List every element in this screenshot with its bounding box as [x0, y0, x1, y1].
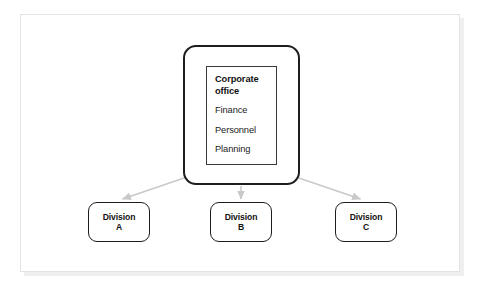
connector-corporate-to-division-a [123, 176, 191, 199]
corporate-office-title-line-1: Corporate [215, 74, 276, 86]
division-b-label-line-2: B [238, 222, 244, 232]
division-c-node: Division C [335, 202, 397, 242]
division-c-label-line-1: Division [350, 212, 383, 222]
division-a-label-line-2: A [116, 222, 122, 232]
corporate-office-function-finance: Finance [215, 105, 276, 117]
division-c-label-line-2: C [363, 222, 369, 232]
corporate-office-function-personnel: Personnel [215, 125, 276, 137]
division-b-node: Division B [210, 202, 272, 242]
corporate-office-title-line-2: office [215, 86, 276, 98]
connector-corporate-to-division-c [293, 176, 361, 199]
division-a-label-line-1: Division [103, 212, 136, 222]
division-b-label-line-1: Division [225, 212, 258, 222]
corporate-office-function-planning: Planning [215, 144, 276, 156]
division-a-node: Division A [88, 202, 150, 242]
corporate-office-functions-panel: Corporate office Finance Personnel Plann… [206, 66, 277, 165]
